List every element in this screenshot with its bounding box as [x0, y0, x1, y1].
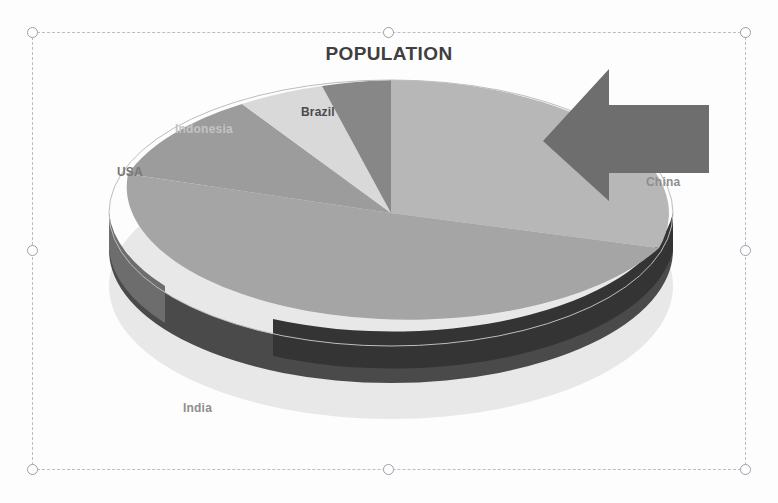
pie-label-indonesia: Indonesia	[175, 122, 233, 136]
callout-arrow-icon[interactable]	[531, 61, 721, 201]
pie-label-brazil: Brazil	[301, 105, 335, 119]
pie-chart-object[interactable]: POPULATION	[33, 33, 745, 469]
pie-label-china: China	[646, 175, 680, 189]
pie-label-usa: USA	[117, 165, 143, 179]
pie-label-india: India	[183, 401, 212, 415]
